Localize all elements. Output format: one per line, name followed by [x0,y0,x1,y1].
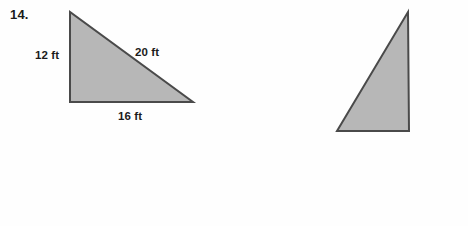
problem-14-number: 14. [10,8,29,21]
triangle-14-horizontal-leg-label: 16 ft [118,111,142,123]
problem-15: 15. 13 cm 11 cm 7 cm [234,0,468,226]
worksheet-page: 14. 12 ft 20 ft 16 ft 15. 13 cm 11 cm 7 … [0,0,468,226]
problem-14: 14. 12 ft 20 ft 16 ft [0,0,234,226]
triangle-14-hypotenuse-label: 20 ft [135,47,159,59]
triangle-14-vertical-leg-label: 12 ft [35,50,59,62]
